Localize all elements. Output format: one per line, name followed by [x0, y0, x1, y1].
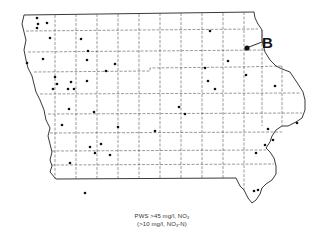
site-dot	[67, 88, 70, 91]
site-dot	[184, 113, 187, 116]
site-dot	[253, 190, 256, 193]
site-dot	[272, 139, 275, 142]
site-dot	[274, 85, 277, 88]
site-dot	[42, 58, 45, 61]
site-dot	[257, 189, 260, 192]
county-lines	[26, 12, 302, 190]
site-dot	[69, 162, 72, 165]
site-dot	[267, 128, 270, 131]
site-dot	[207, 80, 210, 83]
site-dot	[255, 152, 258, 155]
caption-line2-text: (>10 mg/l, NO	[137, 221, 176, 227]
label-b-leader	[249, 42, 262, 47]
site-dot	[56, 83, 59, 86]
site-dot	[209, 30, 212, 33]
site-dot	[214, 88, 217, 91]
site-dot	[204, 67, 207, 70]
site-dot	[264, 144, 267, 147]
site-dot	[70, 81, 73, 84]
site-dot	[36, 27, 39, 30]
site-dot	[109, 154, 112, 157]
site-dot	[86, 59, 89, 62]
site-dot	[37, 23, 40, 26]
label-b: B	[262, 34, 273, 51]
site-dot	[68, 108, 71, 111]
site-dot	[114, 63, 117, 66]
site-dot	[178, 106, 181, 109]
caption-line1-text: PWS >45 mg/l, NO	[135, 213, 187, 219]
caption-line2-suffix: -N)	[178, 221, 187, 227]
site-dot	[26, 62, 29, 65]
site-dot	[86, 80, 89, 83]
highlight-dot-b	[244, 45, 249, 50]
site-dot	[94, 152, 97, 155]
site-dot	[46, 22, 49, 25]
site-dot	[80, 38, 83, 41]
site-dot	[54, 76, 57, 79]
site-dot	[52, 88, 55, 91]
site-dot	[154, 130, 157, 133]
site-dot	[296, 122, 299, 125]
site-dot	[93, 111, 96, 114]
site-dot	[61, 124, 64, 127]
site-dot	[100, 143, 103, 146]
site-dot	[49, 37, 52, 40]
site-dot	[36, 17, 39, 20]
site-dot	[117, 126, 120, 129]
site-dot	[87, 50, 90, 53]
site-dot	[84, 192, 87, 195]
site-dot	[73, 88, 76, 91]
iowa-map	[0, 0, 324, 239]
site-dot	[245, 74, 248, 77]
site-dot	[105, 70, 108, 73]
caption-line2: (>10 mg/l, NO3-N)	[0, 220, 324, 230]
site-dot	[89, 146, 92, 149]
site-dot	[227, 60, 230, 63]
